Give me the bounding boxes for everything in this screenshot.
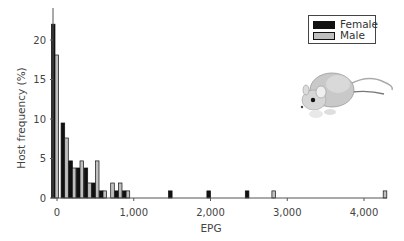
x-tick-label: 3,000 (273, 207, 302, 218)
legend-swatch-female (313, 21, 335, 29)
bar-male (80, 161, 84, 198)
bar-male (118, 183, 122, 198)
bar-female (100, 191, 104, 198)
bar-male (126, 191, 130, 198)
y-tick-label: 0 (40, 193, 46, 204)
y-tick-label: 20 (33, 35, 46, 46)
legend-label-male: Male (340, 30, 365, 41)
bar-female (76, 168, 80, 198)
bar-female (245, 191, 249, 198)
bar-male (65, 138, 69, 198)
x-axis-label: EPG (200, 222, 221, 234)
bar-male (272, 191, 276, 198)
bar-male (111, 183, 115, 198)
mouse-illustration (294, 62, 394, 142)
y-tick-label: 10 (33, 114, 46, 125)
bar-male (103, 191, 107, 198)
bar-female (84, 168, 88, 198)
y-tick-label: 5 (40, 153, 46, 164)
legend-swatch-male (313, 32, 335, 40)
bar-male (95, 161, 99, 198)
bar-female (123, 191, 127, 198)
x-tick-label: 4,000 (350, 207, 379, 218)
bar-male (88, 183, 92, 198)
y-tick-label: 15 (33, 74, 46, 85)
bar-female (61, 123, 65, 198)
legend: Female Male (308, 15, 376, 44)
x-ticks: 01,0002,0003,0004,000 (54, 198, 379, 218)
bar-female (69, 161, 73, 198)
y-ticks: 05101520 (33, 35, 53, 204)
y-axis-label: Host frequency (%) (15, 67, 27, 168)
x-tick-label: 1,000 (119, 207, 148, 218)
bar-male (383, 191, 387, 198)
bar-male (72, 168, 76, 198)
bar-female (115, 191, 119, 198)
bar-female (169, 191, 173, 198)
x-tick-label: 0 (54, 207, 60, 218)
legend-item-male: Male (313, 30, 365, 41)
bar-female (207, 191, 211, 198)
bar-female (92, 183, 96, 198)
x-tick-label: 2,000 (196, 207, 225, 218)
mouse-icon (294, 62, 394, 142)
bar-male (55, 55, 59, 198)
